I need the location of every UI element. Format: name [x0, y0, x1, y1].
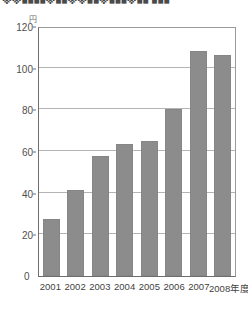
x-axis-tick-label: 2007 — [188, 281, 209, 292]
y-axis-labels: 20406080100120 — [0, 27, 36, 277]
x-axis-tick-label: 2003 — [89, 281, 110, 292]
bar — [165, 109, 182, 276]
y-axis-tick-label: 60 — [22, 147, 33, 158]
plot-area — [38, 27, 236, 277]
x-axis-tick-label: 2002 — [65, 281, 86, 292]
x-axis-tick-label: 2005 — [139, 281, 160, 292]
bar — [43, 219, 60, 276]
page-title: ※※■■■■※■■※※■■※■■■※■■ ■■■ — [2, 0, 169, 6]
y-axis-tick-label: 80 — [22, 105, 33, 116]
y-axis-tick-mark — [33, 193, 36, 194]
x-axis-tick-label: 2004 — [114, 281, 135, 292]
y-axis-tick-label: 40 — [22, 188, 33, 199]
y-axis-tick-mark — [33, 68, 36, 69]
y-axis-tick-mark — [33, 235, 36, 236]
bar — [214, 55, 231, 276]
bar — [116, 144, 133, 276]
bar — [67, 190, 84, 276]
chart-title-strip: ※※■■■■※■■※※■■※■■■※■■ ■■■ — [0, 0, 248, 9]
y-axis-tick-label: 20 — [22, 230, 33, 241]
y-axis-zero-label: 0 — [24, 271, 30, 282]
y-axis-tick-mark — [33, 110, 36, 111]
y-axis-tick-label: 100 — [16, 63, 33, 74]
x-axis-labels: 20012002200320042005200620072008年度 — [38, 281, 236, 299]
bar — [190, 51, 207, 276]
x-axis-tick-label: 2006 — [164, 281, 185, 292]
x-axis-tick-label: 2008年度 — [209, 281, 248, 295]
y-axis-tick-mark — [33, 152, 36, 153]
bar — [141, 141, 158, 276]
y-axis-tick-label: 120 — [16, 22, 33, 33]
x-axis-tick-label: 2001 — [40, 281, 61, 292]
bar — [92, 156, 109, 276]
y-axis-tick-mark — [33, 27, 36, 28]
bar-series — [39, 28, 235, 276]
